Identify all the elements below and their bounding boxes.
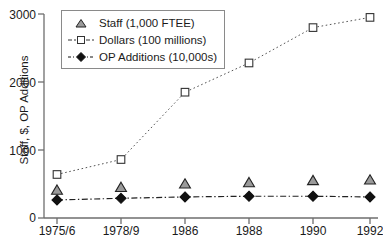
data-point [245,59,253,67]
legend-label-dollars: Dollars (100 millions) [96,34,206,46]
data-point [116,193,126,203]
data-point [308,175,319,184]
chart-legend: Staff (1,000 FTEE) Dollars (100 millions… [61,10,225,69]
data-point [244,191,254,201]
legend-item-staff: Staff (1,000 FTEE) [66,14,217,31]
data-point [308,191,318,201]
data-point [180,179,191,188]
legend-key-square-icon [66,33,96,47]
data-point [366,14,374,22]
legend-item-op-additions: OP Additions (10,000s) [66,48,217,65]
x-tick-label-1990: 1990 [300,224,327,238]
series-1 [52,175,376,194]
x-tick-label-1986: 1986 [172,224,199,238]
data-point [309,24,317,32]
x-tick-label-1988: 1988 [236,224,263,238]
x-tick-label-1992: 1992 [357,224,383,238]
series-line [57,196,370,200]
legend-label-op-additions: OP Additions (10,000s) [96,51,217,63]
data-point [53,171,61,179]
x-tick-label-1975-6: 1975/6 [39,224,76,238]
data-point [244,177,255,186]
series-3 [52,191,375,205]
data-point [365,175,376,184]
legend-label-staff: Staff (1,000 FTEE) [96,17,195,29]
data-point [116,182,127,191]
legend-item-dollars: Dollars (100 millions) [66,31,217,48]
data-point [365,192,375,202]
data-point [52,195,62,205]
data-point [117,156,125,164]
y-axis-ticks [38,14,44,218]
data-point [181,88,189,96]
data-point [180,192,190,202]
legend-key-diamond-icon [66,50,96,64]
legend-key-triangle-icon [66,16,96,30]
data-point [52,185,63,194]
x-tick-label-1978-9: 1978/9 [103,224,140,238]
